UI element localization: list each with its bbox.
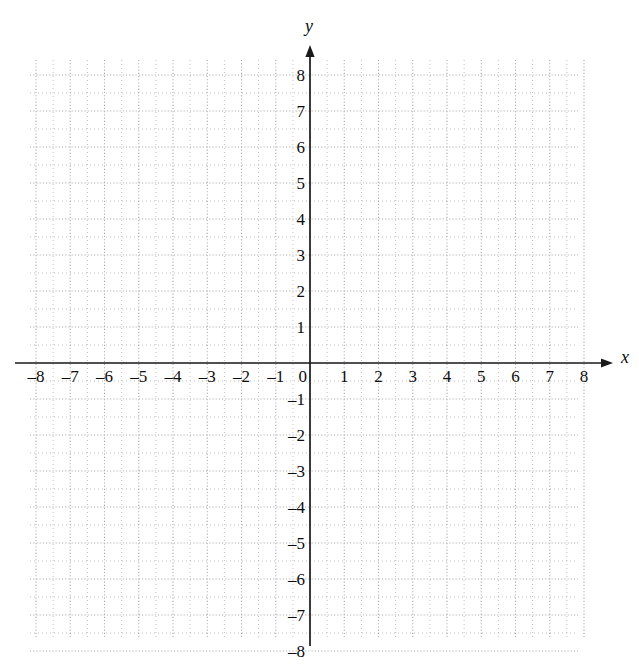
y-axis-label: y — [305, 17, 313, 35]
tick-label-y-neg3: –3 — [288, 463, 305, 480]
tick-label-x-neg4: –4 — [165, 368, 182, 385]
tick-label-y-neg7: –7 — [288, 607, 305, 624]
tick-label-y-neg4: –4 — [288, 499, 305, 516]
tick-label-y-neg8: –8 — [288, 643, 305, 660]
tick-label-x-pos3: 3 — [409, 368, 418, 385]
tick-label-y-pos4: 4 — [297, 211, 306, 228]
tick-label-x-neg7: –7 — [62, 368, 79, 385]
tick-label-x-neg2: –2 — [233, 368, 250, 385]
coordinate-plane: –8–7–6–5–4–3–2–1012345678–8–7–6–5–4–3–2–… — [0, 0, 639, 665]
tick-label-y-pos6: 6 — [297, 139, 306, 156]
tick-label-x-pos5: 5 — [477, 368, 486, 385]
tick-label-x-pos7: 7 — [546, 368, 555, 385]
tick-label-x-pos8: 8 — [580, 368, 589, 385]
tick-label-x-pos2: 2 — [374, 368, 383, 385]
tick-label-y-pos1: 1 — [297, 319, 306, 336]
tick-label-x-neg3: –3 — [199, 368, 216, 385]
tick-label-x-pos1: 1 — [340, 368, 349, 385]
tick-label-x-pos4: 4 — [443, 368, 452, 385]
tick-label-y-neg5: –5 — [288, 535, 305, 552]
tick-label-x-pos6: 6 — [511, 368, 520, 385]
x-axis-label: x — [621, 348, 629, 366]
tick-label-x-neg6: –6 — [96, 368, 113, 385]
tick-label-y-pos8: 8 — [297, 67, 306, 84]
tick-label-x-neg5: –5 — [130, 368, 147, 385]
tick-label-y-pos2: 2 — [297, 283, 306, 300]
tick-label-y-neg2: –2 — [288, 427, 305, 444]
tick-label-y-pos7: 7 — [297, 103, 306, 120]
tick-label-y-neg1: –1 — [288, 391, 305, 408]
tick-label-origin: 0 — [299, 368, 308, 385]
tick-label-x-neg1: –1 — [267, 368, 284, 385]
tick-label-y-pos3: 3 — [297, 247, 306, 264]
coordinate-grid-svg — [0, 0, 639, 665]
plot-background — [0, 0, 639, 665]
tick-label-y-neg6: –6 — [288, 571, 305, 588]
tick-label-x-neg8: –8 — [28, 368, 45, 385]
tick-label-y-pos5: 5 — [297, 175, 306, 192]
